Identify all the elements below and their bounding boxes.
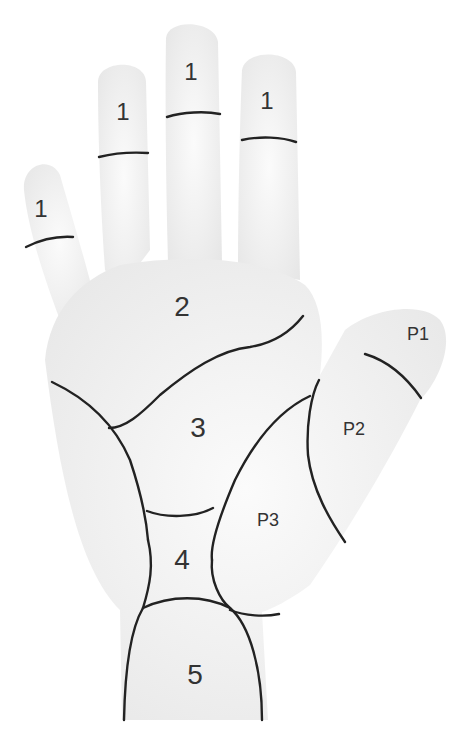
label-ring-finger: 1	[116, 98, 129, 126]
hand-silhouette	[24, 24, 446, 720]
label-region-4: 4	[174, 544, 190, 576]
label-thumb-p1: P1	[407, 324, 429, 345]
label-middle-finger: 1	[184, 58, 197, 86]
label-little-finger: 1	[34, 195, 47, 223]
label-thumb-p3: P3	[257, 510, 279, 531]
label-region-5: 5	[187, 659, 203, 691]
label-region-3: 3	[190, 412, 206, 444]
label-thumb-p2: P2	[343, 419, 365, 440]
hand-diagram	[0, 0, 468, 736]
label-index-finger: 1	[260, 87, 273, 115]
label-region-2: 2	[174, 291, 190, 323]
